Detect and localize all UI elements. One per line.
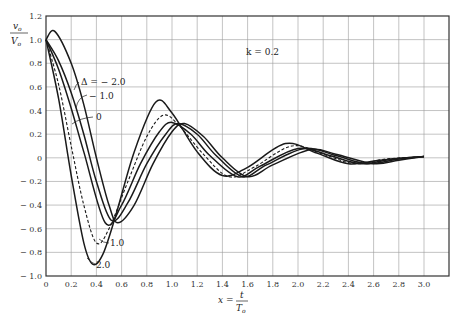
x-tick-label: 3.0: [418, 280, 431, 289]
x-tick-label: 2.6: [367, 280, 380, 289]
x-tick-label: 0: [43, 280, 48, 289]
svg-text:Vo: Vo: [11, 36, 22, 47]
curve-series: [46, 40, 424, 222]
x-tick-label: 0.8: [140, 280, 153, 289]
y-tick-label: 0.8: [29, 59, 42, 68]
label-delta-0: 0: [96, 112, 102, 122]
y-tick-label: 0.4: [29, 107, 42, 116]
y-tick-label: − 0.6: [20, 225, 42, 234]
x-axis-label: x = t To: [218, 290, 248, 314]
y-tick-label: 1.2: [29, 12, 42, 21]
x-tick-label: 1.8: [266, 280, 279, 289]
x-tick-label: 2.2: [317, 280, 330, 289]
y-tick-label: 1.0: [29, 36, 42, 45]
y-tick-label: − 0.4: [20, 201, 42, 210]
x-tick-label: 1.6: [241, 280, 254, 289]
curve-series: [46, 31, 424, 223]
y-tick-label: 0.6: [29, 83, 42, 92]
x-tick-label: 2.8: [392, 280, 405, 289]
y-tick-label: − 0.2: [20, 177, 42, 186]
y-tick-label: − 1.0: [20, 272, 42, 281]
y-axis-label: vo Vo: [10, 21, 28, 47]
svg-text:vo: vo: [13, 21, 22, 32]
x-tick-label: 2.0: [292, 280, 305, 289]
label-delta-minus-2: Δ = − 2.0: [81, 77, 126, 87]
y-tick-label: 0: [37, 154, 42, 163]
y-tick-label: 0.2: [29, 130, 42, 139]
y-tick-label: − 0.8: [20, 248, 42, 257]
x-tick-label: 0.6: [115, 280, 128, 289]
svg-text:x =: x =: [218, 295, 233, 305]
x-tick-label: 0.2: [65, 280, 78, 289]
curve-series: [46, 40, 424, 244]
y-tick-labels: 1.21.00.80.60.40.20− 0.2− 0.4− 0.6− 0.8−…: [20, 12, 42, 281]
x-tick-label: 1.2: [191, 280, 204, 289]
curve-series: [46, 40, 424, 265]
label-delta-1: 1.0: [110, 238, 125, 248]
label-delta-2: 2.0: [96, 260, 111, 270]
x-tick-label: 2.4: [342, 280, 355, 289]
x-tick-label: 0.4: [90, 280, 103, 289]
curve-labels: Δ = − 2.0 − 1.0 0 1.0 2.0: [72, 77, 126, 270]
k-annotation: k = 0.2: [246, 47, 279, 57]
label-delta-minus-1: − 1.0: [89, 91, 114, 101]
curves: [46, 31, 424, 265]
x-tick-label: 1.0: [166, 280, 179, 289]
x-tick-label: 1.4: [216, 280, 229, 289]
svg-text:To: To: [236, 303, 246, 314]
curve-series: [46, 40, 424, 226]
x-tick-labels: 00.20.40.60.81.01.21.41.61.82.02.22.42.6…: [43, 280, 430, 289]
svg-text:t: t: [240, 290, 244, 300]
response-chart: 00.20.40.60.81.01.21.41.61.82.02.22.42.6…: [0, 0, 460, 323]
